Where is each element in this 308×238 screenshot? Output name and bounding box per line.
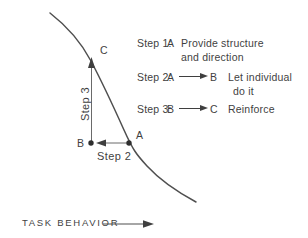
x-axis-label: TASK BEHAVIOR: [22, 217, 119, 228]
point-a-dot: [126, 140, 131, 145]
step1-description-line2: and direction: [181, 50, 264, 64]
step3-arrow-label: Step 3: [79, 80, 91, 128]
point-a-label: A: [136, 129, 143, 141]
step1-from-point: A: [167, 36, 176, 50]
x-axis-arrowhead-icon: [143, 220, 154, 228]
step2-to-point: B: [210, 70, 219, 84]
legend-row-step1: Step 1: A Provide structure and directio…: [137, 36, 264, 64]
step1-description: Provide structure and direction: [181, 36, 264, 64]
step2-from-point: A: [167, 70, 176, 84]
legend-row-step2: Step 2: A B Let individual do it: [137, 70, 292, 98]
step3-to-point: C: [210, 102, 219, 116]
point-c-label: C: [100, 44, 108, 56]
point-b-label: B: [77, 137, 84, 149]
step2-description-line1: Let individual: [228, 70, 292, 84]
step3-label: Step 3:: [137, 102, 167, 116]
step3-description: Reinforce: [228, 102, 275, 116]
step3-right-arrow-icon: [179, 108, 200, 109]
situational-leadership-diagram: C A B Step 3 Step 2 TASK BEHAVIOR Step 1…: [0, 0, 308, 238]
step1-label: Step 1:: [137, 36, 167, 50]
step2-description-line2: do it: [228, 84, 292, 98]
step2-arrow-label: Step 2: [97, 150, 131, 162]
step3-description-line1: Reinforce: [228, 102, 275, 116]
step2-right-arrow-icon: [179, 76, 200, 77]
step2-left-arrowhead-icon: [96, 140, 106, 147]
step3-from-point: B: [167, 102, 176, 116]
step2-label: Step 2:: [137, 70, 167, 84]
step1-description-line1: Provide structure: [181, 36, 264, 50]
point-b-dot: [88, 140, 93, 145]
legend-row-step3: Step 3: B C Reinforce: [137, 102, 275, 116]
step2-description: Let individual do it: [228, 70, 292, 98]
